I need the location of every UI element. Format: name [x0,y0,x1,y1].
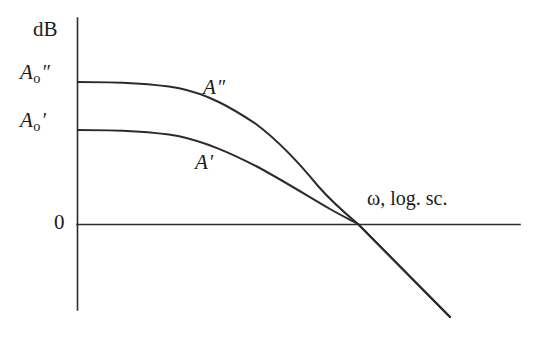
a0-dprime-base: A [20,60,33,84]
a0-dprime-mark: ″ [40,61,49,83]
y-axis-unit-label: dB [33,19,58,40]
y-tick-label-a0-double-prime: Ao″ [20,62,50,85]
curve-a-prime [78,130,450,317]
a-dprime-base: A [203,75,216,99]
plot-canvas [0,0,542,338]
a0-prime-base: A [20,108,33,132]
y-tick-label-a0-prime: Ao′ [20,110,46,133]
a-dprime-mark: ″ [216,76,225,98]
a0-prime-mark: ′ [40,109,45,131]
a-prime-base: A [195,150,208,174]
zero-db-label: 0 [54,212,65,233]
curve-label-a-double-prime: A″ [203,77,225,98]
a-prime-mark: ′ [208,151,213,173]
curve-label-a-prime: A′ [195,152,213,173]
x-axis-label: ω, log. sc. [367,188,447,208]
bode-plot-figure: dB Ao″ Ao′ 0 ω, log. sc. A″ A′ [0,0,542,338]
